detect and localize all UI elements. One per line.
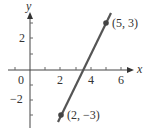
plot-line — [58, 13, 111, 122]
point-label-5-3: (5, 3) — [112, 16, 138, 30]
x-axis-arrow-icon — [127, 67, 134, 73]
y-axis-arrow-icon — [27, 12, 33, 19]
y-tick-label-2: 2 — [19, 31, 25, 45]
point-label-2-neg3: (2, −3) — [67, 108, 100, 122]
x-tick-label-4: 4 — [88, 73, 94, 87]
y-axis-label: y — [25, 0, 32, 13]
x-tick-label-0: 0 — [18, 73, 24, 87]
chart: x y 0 2 4 6 2 −2 (5, 3) (2, −3) — [0, 0, 147, 133]
x-axis-label: x — [136, 62, 143, 76]
x-tick-label-6: 6 — [118, 73, 124, 87]
x-tick-label-2: 2 — [57, 73, 63, 87]
point-5-3 — [103, 20, 109, 26]
y-tick-label-neg2: −2 — [10, 92, 23, 106]
point-2-neg3 — [58, 112, 64, 118]
